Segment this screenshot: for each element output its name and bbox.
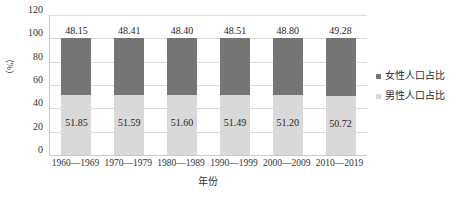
bar-group[interactable]: 48.1551.85 (61, 38, 91, 155)
bar-group[interactable]: 48.8051.20 (273, 38, 303, 155)
bar-series-container: 48.1551.8548.4151.5948.4051.6048.5151.49… (50, 15, 367, 155)
x-axis-tick: 1970—1979 (105, 157, 153, 169)
x-axis-tick-labels: 1960—19691970—19791980—19891990—19992000… (49, 157, 366, 171)
legend-label: 男性人口占比 (385, 90, 445, 102)
bar-label-male: 51.60 (171, 117, 194, 128)
bar-label-female: 48.51 (224, 25, 247, 36)
y-axis-tick: 60 (33, 74, 43, 85)
bar-label-male: 50.72 (329, 118, 352, 129)
bar-segment-male[interactable]: 51.60 (167, 95, 197, 155)
legend-label: 女性人口占比 (385, 70, 445, 82)
bar-segment-male[interactable]: 51.59 (114, 95, 144, 155)
y-axis-tick: 0 (38, 144, 43, 155)
gridline (50, 155, 367, 156)
bar-label-female: 49.28 (329, 25, 352, 36)
chart-legend: 女性人口占比男性人口占比 (376, 70, 468, 110)
y-axis-tick: 40 (33, 97, 43, 108)
legend-item[interactable]: 女性人口占比 (376, 70, 468, 82)
bar-segment-male[interactable]: 50.72 (326, 96, 356, 155)
bar-label-male: 51.85 (65, 117, 88, 128)
bar-segment-female[interactable]: 49.28 (326, 38, 356, 95)
bar-label-female: 48.40 (171, 25, 194, 36)
y-axis-tick-labels: 020406080100120 (18, 9, 46, 156)
y-axis-tick: 100 (28, 27, 43, 38)
x-axis-tick: 2010—2019 (316, 157, 364, 169)
bar-segment-female[interactable]: 48.51 (220, 38, 250, 95)
bar-segment-female[interactable]: 48.15 (61, 38, 91, 94)
bar-segment-male[interactable]: 51.85 (61, 95, 91, 155)
bar-label-female: 48.41 (118, 25, 141, 36)
bar-label-female: 48.80 (277, 25, 300, 36)
x-axis-tick: 1980—1989 (157, 157, 205, 169)
bar-group[interactable]: 48.4151.59 (114, 38, 144, 155)
bar-group[interactable]: 48.5151.49 (220, 38, 250, 155)
bar-segment-male[interactable]: 51.49 (220, 95, 250, 155)
plot-area: 48.1551.8548.4151.5948.4051.6048.5151.49… (49, 15, 367, 155)
bar-label-male: 51.59 (118, 117, 141, 128)
bar-segment-female[interactable]: 48.80 (273, 38, 303, 95)
y-axis-tick: 120 (28, 4, 43, 15)
bar-label-male: 51.49 (224, 117, 247, 128)
x-axis-tick: 2000—2009 (263, 157, 311, 169)
bar-segment-female[interactable]: 48.40 (167, 38, 197, 94)
bar-label-male: 51.20 (277, 117, 300, 128)
y-axis-tick: 20 (33, 121, 43, 132)
y-axis-tick: 80 (33, 51, 43, 62)
x-axis-tick: 1960—1969 (52, 157, 100, 169)
y-axis-title: （%） (5, 63, 15, 79)
bar-group[interactable]: 49.2850.72 (326, 38, 356, 155)
bar-group[interactable]: 48.4051.60 (167, 38, 197, 155)
x-axis-title: 年份 (49, 176, 366, 188)
x-axis-tick: 1990—1999 (210, 157, 258, 169)
bar-segment-female[interactable]: 48.41 (114, 38, 144, 94)
legend-swatch-icon (376, 74, 381, 79)
stacked-bar-chart: （%） 020406080100120 48.1551.8548.4151.59… (0, 0, 471, 203)
bar-label-female: 48.15 (65, 25, 88, 36)
legend-swatch-icon (376, 94, 381, 99)
bar-segment-male[interactable]: 51.20 (273, 95, 303, 155)
legend-item[interactable]: 男性人口占比 (376, 90, 468, 102)
